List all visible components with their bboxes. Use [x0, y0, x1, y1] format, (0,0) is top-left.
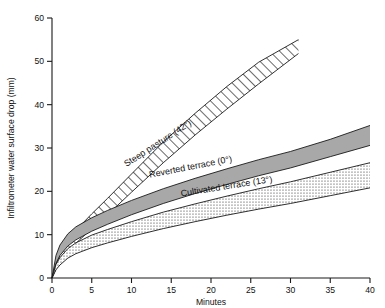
y-tick-label-60: 60	[34, 13, 44, 23]
y-tick-label-10: 10	[34, 230, 44, 240]
y-tick-label-40: 40	[34, 100, 44, 110]
y-tick-label-0: 0	[39, 273, 44, 283]
x-tick-label-20: 20	[206, 285, 216, 295]
y-tick-label-20: 20	[34, 186, 44, 196]
chart-figure: 01020304050600510152025303540MinutesInfi…	[0, 0, 385, 308]
x-tick-label-25: 25	[246, 285, 256, 295]
x-tick-label-30: 30	[286, 285, 296, 295]
y-axis-title: Infiltrometer water surface drop (mm)	[6, 77, 16, 218]
x-tick-label-40: 40	[365, 285, 375, 295]
x-tick-label-15: 15	[166, 285, 176, 295]
x-tick-label-5: 5	[89, 285, 94, 295]
y-tick-label-30: 30	[34, 143, 44, 153]
y-tick-label-50: 50	[34, 56, 44, 66]
x-tick-label-35: 35	[325, 285, 335, 295]
infiltration-chart: 01020304050600510152025303540MinutesInfi…	[0, 0, 385, 308]
x-axis-title: Minutes	[196, 297, 226, 307]
x-tick-label-0: 0	[50, 285, 55, 295]
x-tick-label-10: 10	[127, 285, 137, 295]
